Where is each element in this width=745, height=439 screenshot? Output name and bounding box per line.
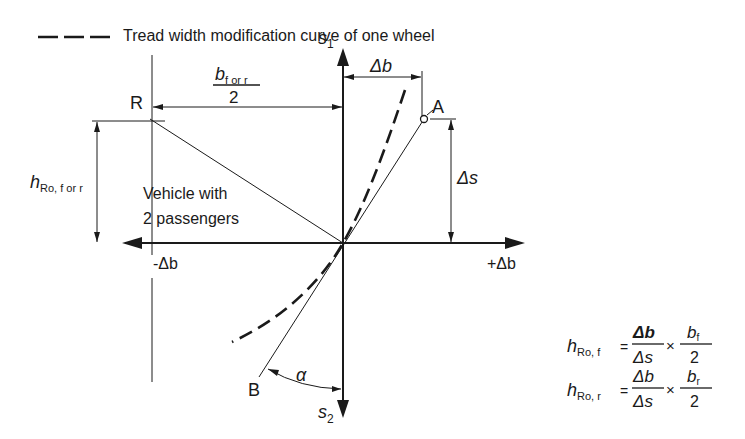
axis-label-s2: s2 [318,402,334,426]
formula-rear-lhs: hRo, r [567,380,601,402]
point-a-marker [421,116,428,123]
svg-text:Δs: Δs [632,348,653,367]
half-track-numerator: bf or r [215,64,248,86]
half-track-denominator: 2 [229,88,238,107]
formula-rear: hRo, r = Δb Δs × br 2 [567,367,712,411]
angle-alpha-label: α [296,365,307,385]
formula-front-lhs: hRo, f [567,336,601,358]
svg-text:2: 2 [690,349,699,366]
point-b-label: B [248,380,260,400]
axes [122,48,525,418]
axis-label-plus-delta-b: +Δb [487,255,516,272]
svg-text:×: × [666,381,675,398]
arrow-left-icon [122,237,142,249]
half-track-dimension: bf or r 2 [153,64,342,110]
annotation-line-2: 2 passengers [143,210,239,227]
formula-front-num2: bf [687,323,699,343]
delta-b-label: Δb [369,56,392,76]
delta-b-dimension: Δb [344,56,422,116]
tread-width-curve [232,90,405,342]
svg-text:2: 2 [690,393,699,410]
svg-text:=: = [620,339,628,355]
point-r-label: R [130,93,143,113]
svg-text:×: × [666,337,675,354]
svg-text:Δb: Δb [632,367,654,386]
svg-text:=: = [620,383,628,399]
arrow-right-icon [505,237,525,249]
annotation-line-1: Vehicle with [143,185,228,202]
svg-text:Δs: Δs [632,392,653,411]
svg-text:Δb: Δb [632,323,655,342]
delta-s-dimension: Δs [430,119,478,242]
delta-s-label: Δs [456,168,478,188]
roll-center-diagram: Tread width modification curve of one wh… [0,0,745,439]
legend-label: Tread width modification curve of one wh… [123,27,435,44]
legend: Tread width modification curve of one wh… [38,27,435,44]
point-a-label: A [432,97,444,117]
axis-label-minus-delta-b: -Δb [153,255,178,272]
roll-center-height-label: hRo, f or r [30,172,83,194]
formula-front: hRo, f = Δb Δs × bf 2 [567,323,712,367]
formula-rear-num2: br [687,367,700,387]
arrow-up-icon [337,48,349,66]
arrow-down-icon [337,400,349,418]
